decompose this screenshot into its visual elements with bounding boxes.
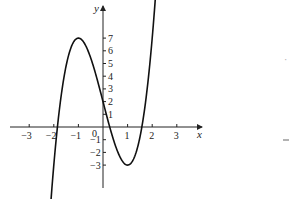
x-tick-label: 2 xyxy=(149,130,154,141)
y-tick-label: 6 xyxy=(108,45,113,56)
x-tick-label: 1 xyxy=(125,130,130,141)
x-tick-label: −2 xyxy=(46,130,57,141)
y-axis-label: y xyxy=(93,2,99,14)
x-tick-label: −3 xyxy=(21,130,32,141)
y-tick-label: −2 xyxy=(90,147,101,158)
origin-label: 0 xyxy=(92,128,97,139)
y-tick-label: 5 xyxy=(108,58,113,69)
y-tick-label: 4 xyxy=(108,71,113,82)
y-tick-label: 3 xyxy=(108,83,113,94)
x-tick-label: −1 xyxy=(70,130,81,141)
cubic-function-graph: −3−2−1123 1234567−1−2−3 x y 0 · xyxy=(0,0,289,199)
y-tick-label: 2 xyxy=(108,96,113,107)
y-ticks: 1234567−1−2−3 xyxy=(90,33,113,171)
clipped-mark-top: · xyxy=(284,54,287,65)
x-tick-label: 3 xyxy=(174,130,179,141)
y-tick-label: 7 xyxy=(108,33,113,44)
y-tick-label: −3 xyxy=(90,160,101,171)
y-tick-label: 1 xyxy=(108,109,113,120)
x-axis-label: x xyxy=(196,128,202,140)
